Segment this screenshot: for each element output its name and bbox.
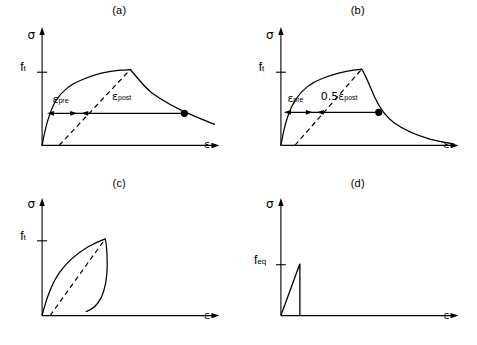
panel-d-axes [275, 197, 458, 317]
panel-a-measurement-arrows [47, 111, 184, 116]
panel-a-softening-curve [42, 70, 214, 146]
panel-b-axes [275, 27, 458, 148]
panel-d-plot [239, 173, 477, 345]
panel-b: (b) σ ft ε [239, 0, 477, 173]
panel-d-elastic-brittle-curve [280, 263, 299, 315]
panel-c-plot [0, 173, 239, 345]
panel-b-secant-dashed [294, 69, 361, 145]
panel-b-softening-curve [280, 69, 453, 145]
panel-c-axes [37, 197, 219, 317]
panel-d: (d) σ feq ε [239, 173, 477, 345]
panel-c: (c) σ ft ε [0, 173, 239, 345]
panel-b-measurement-arrows [283, 110, 378, 115]
panel-a-secant-dashed [59, 70, 130, 146]
stress-strain-figure: (a) σ [0, 0, 477, 345]
panel-b-plot [239, 0, 477, 173]
panel-a-plot [0, 0, 239, 173]
panel-a-end-marker [181, 110, 188, 117]
panel-b-end-marker [375, 109, 382, 116]
panel-a-axes [37, 27, 219, 148]
panel-a: (a) σ [0, 0, 239, 173]
